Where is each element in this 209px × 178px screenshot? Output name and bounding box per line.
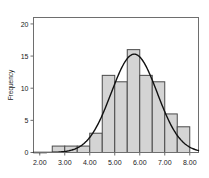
x-axis-tick-label: 4.00	[83, 159, 97, 166]
histogram-bar	[127, 50, 140, 153]
x-axis-tick-label: 2.00	[33, 159, 47, 166]
x-axis-tick-label: 6.00	[133, 159, 147, 166]
histogram-bar	[140, 75, 153, 152]
histogram-bar	[115, 82, 128, 153]
x-axis-tick-label: 7.00	[158, 159, 172, 166]
chart-canvas: 051015202.003.004.005.006.007.008.00Freq…	[0, 0, 209, 178]
y-axis-tick-label: 15	[21, 53, 29, 60]
y-axis-title: Frequency	[7, 69, 15, 100]
x-axis-tick-label: 5.00	[108, 159, 122, 166]
x-axis-tick-label: 8.00	[183, 159, 197, 166]
bars-group	[52, 50, 190, 153]
x-axis-tick-label: 3.00	[58, 159, 72, 166]
histogram-bar	[90, 133, 103, 152]
histogram-bar	[177, 127, 190, 153]
histogram-chart: 051015202.003.004.005.006.007.008.00Freq…	[0, 0, 209, 178]
y-axis-tick-label: 5	[25, 117, 29, 124]
y-axis-tick-label: 0	[25, 149, 29, 156]
histogram-bar	[152, 82, 165, 153]
y-axis-tick-label: 20	[21, 21, 29, 28]
y-axis-tick-label: 10	[21, 85, 29, 92]
